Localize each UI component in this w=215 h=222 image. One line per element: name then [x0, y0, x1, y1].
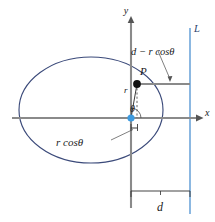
radius-label: r — [124, 85, 128, 95]
origin-dot — [127, 114, 134, 121]
projection-label: r cosθ — [56, 136, 84, 148]
point-p-dot — [133, 80, 141, 88]
y-axis-label: y — [123, 5, 129, 16]
distance-leader-arrowhead — [168, 76, 173, 82]
y-axis-arrowhead — [128, 16, 135, 23]
angle-label: θ — [130, 103, 135, 114]
distance-to-line-label: d − r cosθ — [131, 46, 174, 57]
x-axis-arrowhead — [196, 115, 204, 122]
diagram-canvas: y x L P r θ d − r cosθ r cosθ d — [0, 0, 215, 222]
point-p-label: P — [139, 65, 147, 77]
polar-ellipse-diagram: y x L P r θ d − r cosθ r cosθ d — [0, 0, 215, 222]
rcos-leader-line — [111, 130, 133, 141]
directrix-label-L: L — [193, 23, 200, 34]
x-axis-label: x — [204, 107, 210, 118]
focal-distance-label: d — [157, 200, 164, 214]
